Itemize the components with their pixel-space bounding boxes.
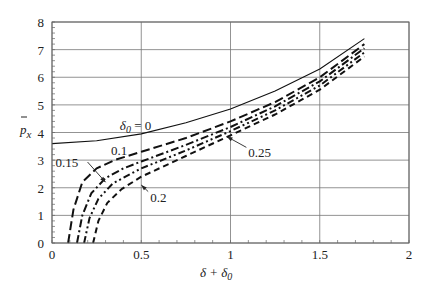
y-tick-label: 3 (38, 153, 45, 168)
y-axis-label: px (19, 117, 32, 140)
x-tick-label: 2 (406, 247, 413, 262)
annotation-label: 0.15 (56, 155, 79, 170)
x-tick-labels: 00.511.52 (49, 247, 413, 262)
chart: δ0 = 00.10.150.20.25 012345678 00.511.52… (0, 0, 432, 289)
svg-text:δ + δ0: δ + δ0 (200, 265, 232, 282)
y-tick-label: 2 (38, 181, 45, 196)
y-tick-label: 1 (38, 208, 45, 223)
annotation-label: 0.25 (248, 145, 271, 160)
y-tick-label: 6 (38, 70, 45, 85)
series-lines (52, 39, 364, 243)
y-tick-label: 8 (38, 15, 45, 30)
x-tick-label: 0.5 (133, 247, 149, 262)
y-tick-labels: 012345678 (38, 15, 45, 251)
x-tick-label: 1.5 (312, 247, 328, 262)
x-tick-label: 0 (49, 247, 56, 262)
y-tick-label: 7 (38, 43, 45, 58)
y-tick-label: 4 (38, 126, 45, 141)
annotation-label: 0.1 (111, 143, 127, 158)
y-tick-label: 0 (38, 236, 45, 251)
y-tick-label: 5 (38, 98, 45, 113)
annotation-label: δ0 = 0 (120, 118, 151, 135)
annotation-label: 0.2 (150, 190, 166, 205)
svg-text:px: px (19, 122, 32, 140)
x-tick-label: 1 (227, 247, 234, 262)
arrowhead-icon (227, 137, 233, 142)
x-axis-label: δ + δ0 (200, 265, 232, 282)
